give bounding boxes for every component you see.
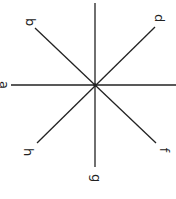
label-f: f xyxy=(157,148,172,153)
diagram-canvas: a b d h g f xyxy=(0,0,176,199)
label-b: b xyxy=(23,18,38,26)
label-g: g xyxy=(89,174,104,182)
label-d: d xyxy=(152,14,167,22)
center-point xyxy=(93,83,97,87)
label-a: a xyxy=(0,81,12,89)
label-h: h xyxy=(21,148,36,156)
